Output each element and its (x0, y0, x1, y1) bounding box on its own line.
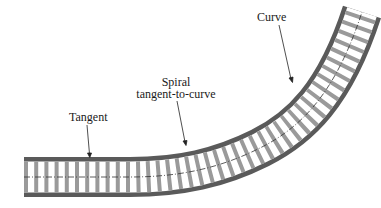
spiral-arrowhead (183, 141, 187, 146)
curve-arrowhead (289, 77, 293, 83)
tangent-arrowhead (88, 153, 92, 158)
curve-arrow (279, 25, 291, 79)
track-diagram (0, 0, 381, 208)
curve-label: Curve (257, 11, 286, 23)
tangent-arrow (87, 125, 90, 154)
spiral-arrow (177, 101, 185, 142)
tangent-label: Tangent (69, 111, 107, 123)
spiral-sublabel: tangent-to-curve (136, 88, 216, 100)
